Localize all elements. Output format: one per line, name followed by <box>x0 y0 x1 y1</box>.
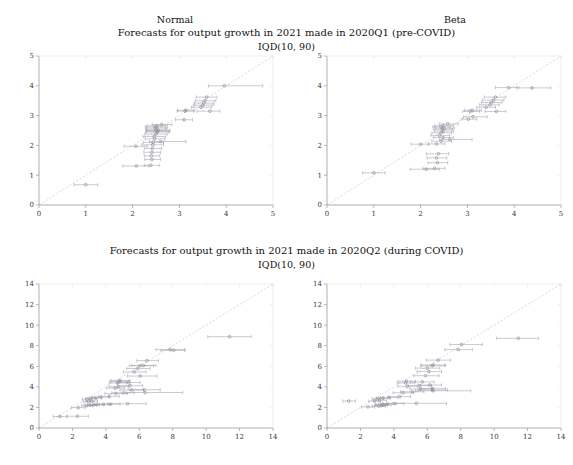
panel-bottom-right: 0246810121402468101214 <box>313 282 563 442</box>
y-tick-label: 2 <box>318 142 322 150</box>
x-tick-label: 10 <box>202 433 211 441</box>
data-point <box>408 384 431 387</box>
y-tick-label: 4 <box>318 383 323 391</box>
x-tick-label: 0 <box>37 210 41 218</box>
panel-top-right: 012345012345 <box>313 54 563 219</box>
data-point <box>484 95 506 98</box>
y-tick-label: 10 <box>25 322 34 330</box>
x-tick-label: 6 <box>425 433 430 441</box>
data-point <box>410 168 439 171</box>
data-point <box>144 164 159 167</box>
y-tick-label: 3 <box>30 112 34 120</box>
y-tick-label: 6 <box>318 363 323 371</box>
x-tick-label: 0 <box>37 433 41 441</box>
data-point <box>143 135 165 138</box>
x-tick-label: 4 <box>224 210 229 218</box>
x-tick-label: 12 <box>235 433 244 441</box>
y-tick-label: 2 <box>30 404 34 412</box>
data-point <box>196 95 217 98</box>
y-tick-label: 2 <box>318 404 322 412</box>
column-header-beta-label: Beta <box>444 14 466 25</box>
y-tick-label: 4 <box>30 82 35 90</box>
data-point <box>435 129 454 132</box>
panel-top-left: 012345012345 <box>25 54 275 219</box>
y-tick-label: 0 <box>318 201 322 209</box>
y-tick-label: 10 <box>313 322 322 330</box>
row-2-subtitle: IQD(10, 90) <box>0 259 573 270</box>
data-point <box>123 164 149 167</box>
data-point <box>156 348 184 351</box>
x-tick-label: 2 <box>358 433 362 441</box>
data-point <box>361 405 374 408</box>
data-point <box>53 415 66 418</box>
y-tick-label: 5 <box>30 52 34 60</box>
y-tick-label: 1 <box>30 172 34 180</box>
x-tick-label: 14 <box>269 433 278 441</box>
x-tick-label: 3 <box>465 210 469 218</box>
data-point <box>418 383 441 386</box>
data-point <box>416 366 440 369</box>
figure-root: Normal Beta Forecasts for output growth … <box>0 0 573 465</box>
y-tick-label: 8 <box>318 342 322 350</box>
data-point <box>74 183 97 186</box>
data-point <box>67 415 88 418</box>
data-point <box>411 143 429 146</box>
data-point <box>398 380 416 383</box>
data-series-top-left <box>74 84 263 186</box>
y-tick-label: 5 <box>318 52 322 60</box>
y-tick-label: 12 <box>313 301 322 309</box>
data-point <box>195 99 216 102</box>
plot-area-bottom-left: 0246810121402468101214 <box>25 282 275 442</box>
x-tick-label: 4 <box>512 210 517 218</box>
data-point <box>482 98 504 101</box>
data-point <box>421 364 445 367</box>
row-2-title: Forecasts for output growth in 2021 made… <box>0 245 573 256</box>
data-point <box>178 109 195 112</box>
column-header-beta: Beta <box>405 14 505 25</box>
reference-line-45deg <box>327 284 561 428</box>
data-point <box>517 86 551 89</box>
plot-area-top-right: 012345012345 <box>313 54 563 219</box>
row-2-subtitle-text: IQD(10, 90) <box>258 259 315 270</box>
data-point <box>208 335 251 338</box>
data-point <box>124 145 147 148</box>
y-tick-label: 3 <box>318 112 322 120</box>
data-point <box>108 402 146 405</box>
y-tick-label: 2 <box>30 142 34 150</box>
x-tick-label: 5 <box>271 210 275 218</box>
y-tick-label: 0 <box>30 424 34 432</box>
x-tick-label: 8 <box>170 433 174 441</box>
y-tick-label: 0 <box>318 424 322 432</box>
data-point <box>450 343 483 346</box>
data-point <box>144 151 161 154</box>
plot-area-bottom-right: 0246810121402468101214 <box>313 282 563 442</box>
data-series-bottom-right <box>343 337 539 409</box>
row-1-title: Forecasts for output growth in 2021 made… <box>0 27 573 38</box>
row-1-subtitle-text: IQD(10, 90) <box>258 41 315 52</box>
data-point <box>426 358 450 361</box>
data-point <box>123 370 146 373</box>
data-point <box>420 387 446 390</box>
y-tick-label: 8 <box>30 342 34 350</box>
data-point <box>176 118 193 121</box>
data-series-bottom-left <box>53 335 251 418</box>
x-tick-label: 2 <box>70 433 74 441</box>
column-header-normal: Normal <box>125 14 225 25</box>
data-point <box>137 359 159 362</box>
x-tick-label: 2 <box>418 210 422 218</box>
column-header-normal-label: Normal <box>157 14 193 25</box>
x-tick-label: 8 <box>458 433 462 441</box>
data-point <box>423 167 445 170</box>
data-point <box>127 367 150 370</box>
x-tick-label: 14 <box>557 433 566 441</box>
data-point <box>485 110 506 113</box>
data-point <box>445 348 473 351</box>
data-point <box>208 84 262 87</box>
data-point <box>132 364 156 367</box>
y-tick-label: 4 <box>30 383 35 391</box>
row-1-subtitle: IQD(10, 90) <box>0 41 573 52</box>
x-tick-label: 6 <box>137 433 142 441</box>
x-tick-label: 1 <box>372 210 376 218</box>
x-tick-label: 10 <box>490 433 499 441</box>
reference-line-45deg <box>39 284 273 428</box>
